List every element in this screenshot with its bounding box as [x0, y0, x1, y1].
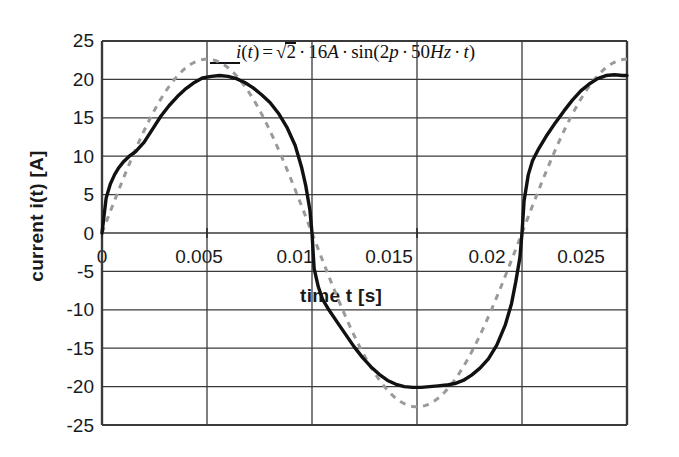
gridlines: [102, 41, 627, 425]
measured-current-curve: [102, 75, 627, 388]
plot-area: [0, 0, 679, 457]
chart-figure: current i(t) [A] 25 20 15 10 5 0 -5 -10 …: [0, 0, 679, 457]
